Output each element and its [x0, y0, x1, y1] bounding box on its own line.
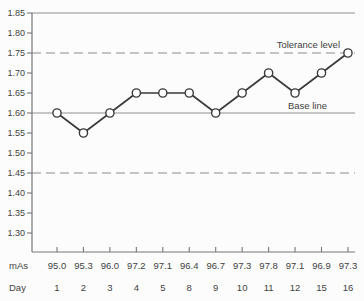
data-point-marker — [79, 129, 87, 137]
data-point-marker — [291, 89, 299, 97]
data-point-marker — [265, 69, 273, 77]
mas-value: 97.8 — [259, 260, 278, 271]
mas-row-header: mAs — [9, 260, 28, 271]
mas-value: 96.0 — [101, 260, 120, 271]
y-tick-label: 1.45 — [7, 168, 25, 178]
y-tick-label: 1.60 — [7, 108, 25, 118]
mas-value: 97.1 — [154, 260, 173, 271]
quality-control-chart-figure: 1.851.801.751.701.651.601.551.501.451.40… — [0, 0, 364, 301]
day-row-header: Day — [9, 282, 26, 293]
mas-value: 97.3 — [339, 260, 358, 271]
data-line — [57, 53, 348, 133]
day-value: 2 — [81, 282, 86, 293]
y-tick-label: 1.40 — [7, 188, 25, 198]
y-tick-label: 1.50 — [7, 148, 25, 158]
mas-value: 95.0 — [48, 260, 67, 271]
data-point-marker — [132, 89, 140, 97]
day-value: 12 — [290, 282, 301, 293]
y-tick-label: 1.70 — [7, 68, 25, 78]
data-point-marker — [185, 89, 193, 97]
y-tick-label: 1.35 — [7, 208, 25, 218]
mas-value: 96.4 — [180, 260, 199, 271]
y-tick-label: 1.75 — [7, 48, 25, 58]
day-value: 8 — [187, 282, 192, 293]
data-point-marker — [238, 89, 246, 97]
day-value: 9 — [213, 282, 218, 293]
y-axis-ticks-labels: 1.851.801.751.701.651.601.551.501.451.40… — [7, 8, 32, 238]
y-tick-label: 1.80 — [7, 28, 25, 38]
day-value: 5 — [160, 282, 165, 293]
data-point-marker — [53, 109, 61, 117]
data-point-marker — [106, 109, 114, 117]
day-value: 1 — [54, 282, 59, 293]
day-value: 4 — [134, 282, 139, 293]
x-axis-value-rows: 95.095.396.097.297.196.496.797.397.897.1… — [48, 260, 357, 293]
mas-value: 97.3 — [233, 260, 252, 271]
mas-value: 95.3 — [74, 260, 93, 271]
tolerance-level-label: Tolerance level — [277, 39, 340, 50]
day-value: 3 — [107, 282, 112, 293]
data-point-marker — [212, 109, 220, 117]
mas-value: 96.9 — [312, 260, 331, 271]
day-value: 15 — [316, 282, 327, 293]
line-chart-canvas: 1.851.801.751.701.651.601.551.501.451.40… — [0, 0, 364, 301]
y-tick-label: 1.30 — [7, 228, 25, 238]
mas-value: 97.1 — [286, 260, 305, 271]
data-series — [53, 49, 352, 137]
base-line-label: Base line — [288, 100, 327, 111]
mas-value: 97.2 — [127, 260, 146, 271]
day-value: 10 — [237, 282, 248, 293]
day-value: 16 — [343, 282, 354, 293]
y-tick-label: 1.55 — [7, 128, 25, 138]
data-point-marker — [317, 69, 325, 77]
y-tick-label: 1.65 — [7, 88, 25, 98]
data-point-marker — [344, 49, 352, 57]
y-tick-label: 1.85 — [7, 8, 25, 18]
data-point-marker — [159, 89, 167, 97]
day-value: 11 — [264, 282, 274, 293]
mas-value: 96.7 — [206, 260, 225, 271]
